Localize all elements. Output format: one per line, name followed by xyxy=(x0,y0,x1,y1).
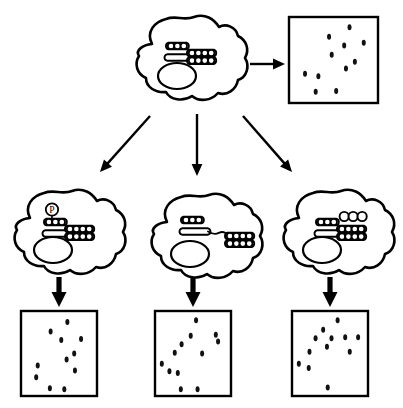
result-dot xyxy=(214,332,218,338)
arrow-parent-to-result-head xyxy=(273,59,285,70)
glycan-bead xyxy=(67,233,73,239)
glycan-bead xyxy=(240,240,246,246)
result-dot xyxy=(316,73,320,79)
glycan-bead xyxy=(345,233,351,239)
glycan-bead xyxy=(86,233,92,239)
arrow-parent-to-result xyxy=(250,59,285,70)
result-dot xyxy=(62,386,66,392)
glycan-bead xyxy=(345,226,351,232)
result-box-frame xyxy=(292,311,368,396)
arrow-right-variant-to-box xyxy=(323,277,338,307)
result-dot xyxy=(353,59,357,65)
glycan-bead xyxy=(202,50,208,56)
glycan-bead xyxy=(73,226,79,232)
glycan-bead xyxy=(240,233,246,239)
arrow-middle-variant-to-box-head xyxy=(186,292,201,307)
glycan-bead xyxy=(227,240,233,246)
arrow-parent-to-left-variant xyxy=(100,116,150,172)
arrow-left-variant-to-box-head xyxy=(52,292,67,307)
glycan-bead xyxy=(183,217,189,223)
glycan-bead xyxy=(59,219,65,225)
glycan-bead xyxy=(352,233,358,239)
arrow-left-variant-to-box xyxy=(52,277,67,307)
open-residue-bead xyxy=(358,212,367,221)
glycan-bead xyxy=(208,57,214,63)
result-dot xyxy=(34,374,38,380)
variant-cell-phosphate: P xyxy=(15,190,126,274)
glycan-bead xyxy=(86,226,92,232)
result-dot xyxy=(196,386,200,392)
glycan-bead xyxy=(73,233,79,239)
result-dot xyxy=(167,368,171,374)
result-dot xyxy=(160,361,164,367)
glycan-bead xyxy=(189,217,195,223)
diagram-canvas: P xyxy=(0,0,403,408)
glycan-bead xyxy=(352,226,358,232)
result-box-extended xyxy=(292,311,368,396)
glycan-bead xyxy=(358,233,364,239)
result-dot xyxy=(342,42,346,48)
glycan-bead xyxy=(358,226,364,232)
phosphate-label: P xyxy=(49,205,54,215)
glycan-bead xyxy=(195,50,201,56)
result-dot xyxy=(348,24,352,30)
result-dot xyxy=(65,356,69,362)
arrow-right-variant-to-box-head xyxy=(323,292,338,307)
arrow-parent-to-left-variant-shaft xyxy=(107,116,150,164)
glycan-bead xyxy=(318,219,324,225)
result-dot xyxy=(325,344,329,350)
glycan-bead xyxy=(233,240,239,246)
glycan-bead-grid xyxy=(225,233,254,247)
result-dot xyxy=(65,319,69,325)
cell-nucleus xyxy=(171,241,209,267)
result-dot xyxy=(200,351,204,357)
arrow-parent-to-right-variant-shaft xyxy=(243,116,285,164)
result-dot xyxy=(59,337,63,343)
glycan-variant-diagram: P xyxy=(0,0,403,408)
result-box-frame xyxy=(155,311,231,396)
arrow-parent-to-middle-variant xyxy=(192,114,203,176)
parent-cell xyxy=(137,16,248,100)
result-box-frame xyxy=(21,311,97,396)
result-dot xyxy=(297,361,301,367)
glycan-bead xyxy=(233,233,239,239)
result-dot xyxy=(173,350,177,356)
result-dot xyxy=(348,349,352,355)
result-dot xyxy=(73,368,77,374)
result-dot xyxy=(321,327,325,333)
glycan-bead xyxy=(331,219,337,225)
result-box-parent xyxy=(289,17,378,103)
glycan-bead xyxy=(181,43,187,49)
glycan-bead xyxy=(202,57,208,63)
glycan-bead xyxy=(189,57,195,63)
result-box-phosphate xyxy=(21,311,97,396)
result-dot xyxy=(336,317,340,323)
glycan-top-row xyxy=(44,219,67,226)
arrow-parent-to-middle-variant-head xyxy=(192,164,203,176)
glycan-top-row xyxy=(181,217,204,224)
open-residue-bead xyxy=(349,212,358,221)
glycan-bead xyxy=(339,226,345,232)
result-dot xyxy=(307,349,311,355)
glycan-bead-grid xyxy=(337,226,366,240)
glycan-top-row xyxy=(166,43,189,50)
result-dot xyxy=(344,66,348,72)
result-dot xyxy=(189,333,193,339)
variant-cell-stretched xyxy=(152,194,263,278)
result-dot xyxy=(48,385,52,391)
glycan-rod xyxy=(180,228,211,234)
result-dot xyxy=(314,335,318,341)
glycan-bead xyxy=(46,219,52,225)
glycan-bead xyxy=(208,50,214,56)
open-residue-bead xyxy=(340,212,349,221)
result-dot xyxy=(180,341,184,347)
cell-nucleus xyxy=(34,237,72,263)
result-dot xyxy=(36,362,40,368)
arrow-parent-to-right-variant xyxy=(243,116,292,172)
result-dot xyxy=(307,365,311,371)
result-dot xyxy=(343,334,347,340)
glycan-bead xyxy=(246,240,252,246)
result-dot xyxy=(362,40,366,46)
result-dot xyxy=(176,370,180,376)
glycan-bead-grid xyxy=(65,226,94,240)
